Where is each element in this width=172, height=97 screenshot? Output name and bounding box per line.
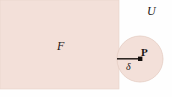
set-label-F: F (57, 40, 64, 52)
topology-figure: U F P δ (0, 0, 172, 97)
radius-label-delta: δ (126, 62, 131, 72)
universe-label-U: U (147, 5, 156, 17)
point-label-P: P (141, 47, 148, 58)
